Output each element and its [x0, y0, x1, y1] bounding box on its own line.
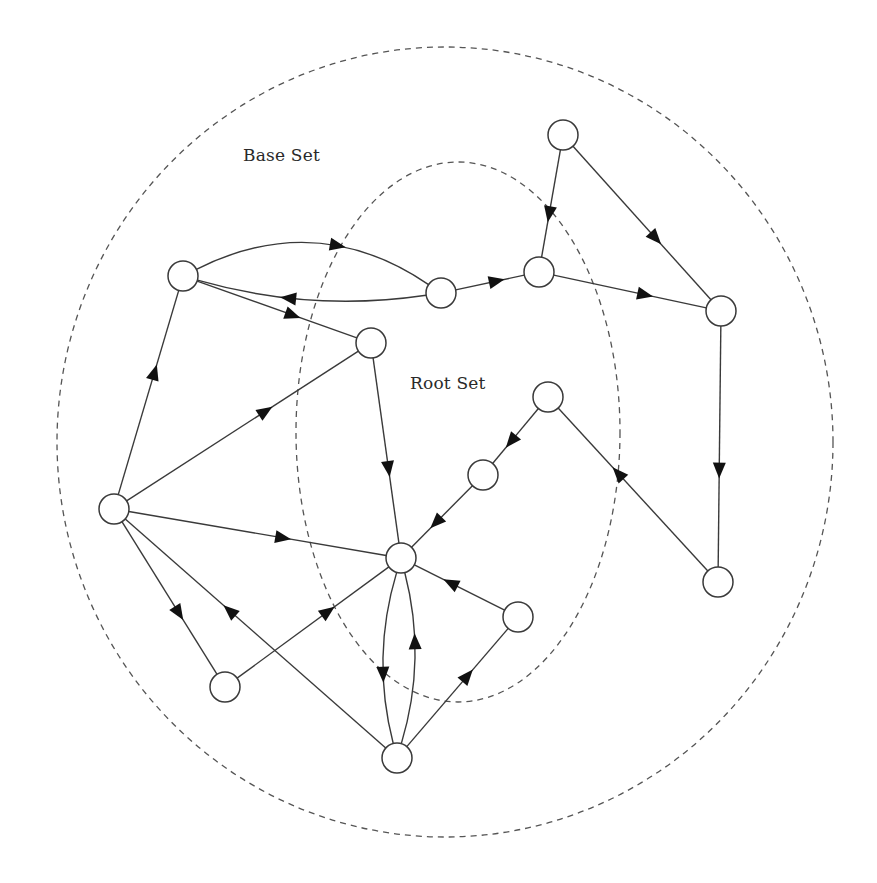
arrowhead-icon: [274, 530, 291, 543]
edge-n14-to-n11: [407, 628, 508, 746]
node-n5: [706, 296, 736, 326]
edge-n10-to-n14: [383, 572, 397, 743]
edge-n13-to-n10: [237, 567, 389, 678]
edge-n11-to-n10: [414, 565, 504, 610]
edge-n5-to-n12: [718, 326, 721, 567]
edge-n14-to-n9: [125, 519, 385, 748]
edges: [118, 146, 721, 748]
arrowhead-icon: [544, 205, 557, 222]
edge-n9-to-n2: [118, 290, 178, 494]
node-n4: [524, 257, 554, 287]
arrowhead-icon: [146, 364, 158, 381]
edge-n1-to-n4: [542, 150, 561, 257]
arrowhead-icon: [255, 407, 272, 421]
arrowhead-icon: [223, 605, 239, 620]
edge-n12-to-n7: [558, 408, 708, 571]
arrowhead-icon: [280, 292, 297, 305]
node-n6: [356, 328, 386, 358]
edge-n14-to-n10: [401, 573, 415, 744]
set-regions: [57, 47, 833, 837]
edge-n8-to-n10: [412, 486, 473, 548]
edge-n6-to-n10: [373, 358, 399, 543]
node-n3: [426, 278, 456, 308]
edge-n9-to-n13: [122, 522, 217, 675]
arrowheads: [146, 205, 726, 686]
edge-n2-to-n6: [197, 281, 357, 338]
node-n11: [503, 602, 533, 632]
edge-n2-to-n3: [196, 242, 428, 284]
node-n9: [99, 494, 129, 524]
arrowhead-icon: [636, 287, 653, 300]
edge-n3-to-n2: [197, 280, 426, 301]
base-set-label: Base Set: [243, 145, 320, 165]
edge-n4-to-n5: [554, 275, 707, 308]
edge-n9-to-n6: [127, 351, 359, 501]
arrowhead-icon: [488, 276, 505, 289]
node-n14: [382, 743, 412, 773]
node-n13: [210, 672, 240, 702]
edge-n1-to-n5: [573, 146, 711, 300]
node-n2: [168, 261, 198, 291]
edge-n9-to-n10: [129, 512, 386, 556]
diagram-canvas: Base Set Root Set: [0, 0, 877, 883]
arrowhead-icon: [381, 460, 394, 477]
nodes: [99, 120, 736, 773]
node-n8: [468, 460, 498, 490]
base-set-region: [57, 47, 833, 837]
root-set-label: Root Set: [410, 373, 486, 393]
arrowhead-icon: [318, 607, 335, 622]
hits-graph: [0, 0, 877, 883]
node-n10: [386, 543, 416, 573]
node-n1: [548, 120, 578, 150]
arrowhead-icon: [409, 633, 422, 649]
arrowhead-icon: [443, 579, 460, 592]
node-n12: [703, 567, 733, 597]
arrowhead-icon: [506, 431, 521, 447]
arrowhead-icon: [169, 603, 183, 620]
arrowhead-icon: [329, 238, 346, 251]
node-n7: [533, 382, 563, 412]
arrowhead-icon: [458, 670, 473, 686]
arrowhead-icon: [713, 463, 726, 479]
arrowhead-icon: [283, 306, 300, 318]
root-set-region: [296, 162, 620, 702]
